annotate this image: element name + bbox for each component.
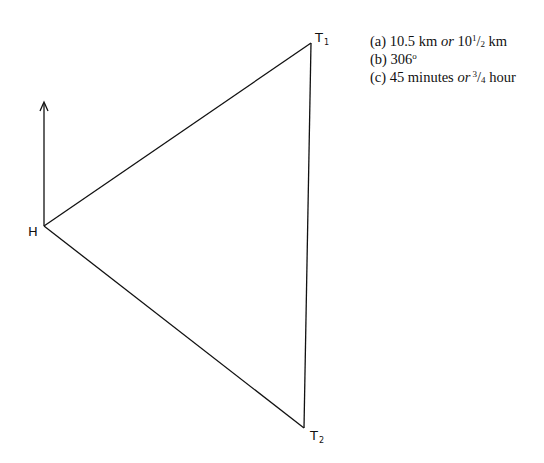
label-t1-sub: 1 [324,38,329,47]
answer-b-text: (b) 306 [370,51,412,67]
label-t2: T [309,428,318,443]
answer-a-suffix: km [485,33,507,49]
label-t2-sub: 2 [319,436,324,445]
answer-a-or: or [441,33,454,49]
answer-a-whole: 10 [454,33,472,49]
answers-block: (a) 10.5 km or 101/2 km (b) 306o (c) 45 … [370,32,516,86]
answer-c-suffix: hour [486,69,516,85]
label-h: H [28,224,38,239]
answer-a-text: (a) 10.5 km [370,33,441,49]
answer-b: (b) 306o [370,50,516,68]
answer-c: (c) 45 minutes or 3/4 hour [370,68,516,86]
line-h-t2 [44,226,304,428]
line-t1-t2 [304,43,311,428]
line-h-t1 [44,43,311,226]
answer-c-or: or [457,69,470,85]
answer-c-text: (c) 45 minutes [370,69,457,85]
answer-a: (a) 10.5 km or 101/2 km [370,32,516,50]
label-t1: T [314,30,323,45]
degree-symbol: o [412,51,417,61]
